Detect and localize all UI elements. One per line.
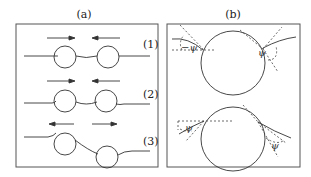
- bottom-sphere-group: [179, 107, 291, 171]
- row1-label: (1): [143, 38, 159, 51]
- top-left-angle-label: −ψ: [181, 42, 197, 53]
- panel-a-label: (a): [76, 8, 91, 21]
- row3-spheres: [24, 133, 150, 168]
- panel-a-frame: [16, 24, 158, 167]
- bottom-right-angle-label: ψ: [271, 140, 279, 151]
- row2-arrows: [47, 79, 120, 83]
- row2-label: (2): [143, 88, 159, 101]
- top-right-angle-label: ψ: [258, 47, 266, 58]
- row3-arrows: [49, 122, 117, 126]
- panel-b-label: (b): [225, 8, 241, 21]
- row3-label: (3): [143, 135, 159, 148]
- row1-arrows: [47, 36, 120, 40]
- row2-spheres: [24, 90, 150, 112]
- bottom-left-angle-label: ψ: [185, 122, 193, 133]
- row1-spheres: [24, 46, 150, 68]
- top-sphere-group: [172, 31, 296, 95]
- figure-canvas: (a) (1) (2) (3) (b): [0, 0, 311, 177]
- bottom-sphere-tangents: [178, 105, 286, 157]
